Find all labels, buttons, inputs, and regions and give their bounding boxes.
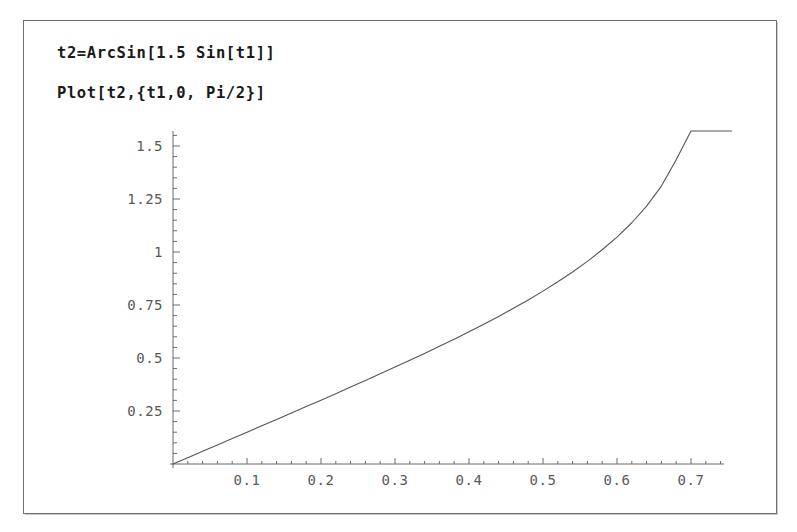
y-tick-label: 0.5	[136, 350, 163, 366]
y-tick-label: 0.75	[127, 297, 163, 313]
plot-curve	[173, 131, 732, 464]
x-tick-label: 0.2	[308, 472, 335, 488]
plot-svg: 0.10.20.30.40.50.60.70.250.50.7511.251.5	[24, 21, 778, 515]
y-tick-label: 1.5	[136, 138, 163, 154]
x-tick-label: 0.5	[530, 472, 557, 488]
x-tick-label: 0.4	[456, 472, 483, 488]
x-tick-label: 0.6	[604, 472, 631, 488]
y-tick-label: 1	[154, 244, 163, 260]
x-tick-label: 0.3	[382, 472, 409, 488]
plot-output: 0.10.20.30.40.50.60.70.250.50.7511.251.5	[24, 21, 778, 515]
y-tick-label: 1.25	[127, 191, 163, 207]
x-tick-label: 0.1	[234, 472, 261, 488]
screenshot-root: t2=ArcSin[1.5 Sin[t1]] Plot[t2,{t1,0, Pi…	[0, 0, 797, 532]
y-tick-label: 0.25	[127, 403, 163, 419]
x-tick-label: 0.7	[678, 472, 705, 488]
notebook-cell-frame: t2=ArcSin[1.5 Sin[t1]] Plot[t2,{t1,0, Pi…	[23, 20, 777, 514]
